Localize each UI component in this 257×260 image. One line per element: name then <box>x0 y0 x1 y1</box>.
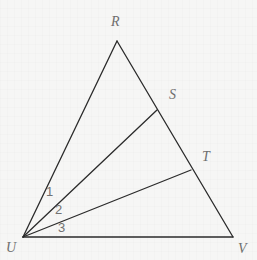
segment-RV <box>117 41 233 237</box>
geometry-figure: R S T U V 1 2 3 <box>0 0 257 260</box>
angle-label-2: 2 <box>55 203 62 216</box>
vertex-label-V: V <box>238 242 247 256</box>
vertex-label-T: T <box>202 150 210 164</box>
vertex-label-U: U <box>6 241 16 255</box>
segment-UT <box>23 170 191 237</box>
segment-UR <box>23 41 117 237</box>
vertex-label-R: R <box>111 15 120 29</box>
angle-label-3: 3 <box>58 221 65 234</box>
vertex-label-S: S <box>169 88 176 102</box>
segment-US <box>23 110 157 237</box>
angle-label-1: 1 <box>46 185 53 198</box>
triangle-diagram-svg <box>0 0 257 260</box>
